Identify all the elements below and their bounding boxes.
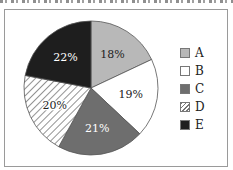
legend-label: A <box>195 46 204 60</box>
legend-item-e: E <box>180 116 205 134</box>
legend-swatch <box>180 48 190 58</box>
slice-label-a: 18% <box>100 48 124 61</box>
legend-label: C <box>195 82 204 96</box>
legend-swatch <box>180 84 190 94</box>
legend-item-a: A <box>180 44 205 62</box>
legend: ABCDE <box>180 44 205 134</box>
legend-swatch <box>180 102 190 112</box>
legend-label: D <box>195 100 205 114</box>
legend-item-c: C <box>180 80 205 98</box>
slice-label-b: 19% <box>118 88 142 101</box>
legend-item-b: B <box>180 62 205 80</box>
legend-label: B <box>195 64 204 78</box>
legend-swatch <box>180 66 190 76</box>
legend-item-d: D <box>180 98 205 116</box>
slice-label-e: 22% <box>53 51 77 64</box>
legend-swatch <box>180 120 190 130</box>
legend-label: E <box>195 118 204 132</box>
slice-label-d: 20% <box>42 99 66 112</box>
slice-label-c: 21% <box>85 122 109 135</box>
